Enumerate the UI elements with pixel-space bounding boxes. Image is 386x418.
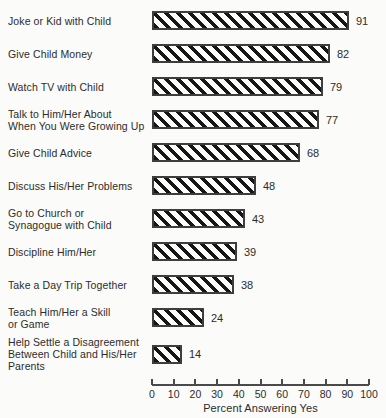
value-label: 14 [189,348,201,360]
value-label: 24 [211,312,223,324]
category-label-line: Help Settle a Disagreement [8,336,152,348]
category-label-line: Between Child and His/Her [8,348,152,360]
axis-tick [194,379,196,385]
bar-rows: Joke or Kid with Child91Give Child Money… [0,4,386,374]
bar-track: 77 [152,110,386,129]
category-label: Talk to Him/Her AboutWhen You Were Growi… [0,108,152,132]
category-label: Go to Church orSynagogue with Child [0,207,152,231]
value-label: 43 [252,213,264,225]
tick-label: 20 [190,388,202,400]
category-label: Joke or Kid with Child [0,15,152,27]
bar-row: Discuss His/Her Problems48 [0,169,386,202]
value-label: 38 [241,279,253,291]
bar-track: 39 [152,242,386,261]
category-label: Help Settle a DisagreementBetween Child … [0,336,152,372]
axis-tick [368,379,370,385]
bar-track: 68 [152,143,386,162]
axis-tick [151,379,153,385]
value-label: 77 [326,114,338,126]
hatched-bar [152,308,204,327]
bar-row: Give Child Advice68 [0,136,386,169]
bar-track: 82 [152,44,386,63]
bar-row: Teach Him/Her a Skillor Game24 [0,301,386,334]
bar-track: 91 [152,11,386,30]
bar-row: Take a Day Trip Together38 [0,268,386,301]
tick-label: 80 [320,388,332,400]
category-label-line: Watch TV with Child [8,81,152,93]
category-label-line: Give Child Advice [8,147,152,159]
bar-row: Watch TV with Child79 [0,70,386,103]
tick-label: 100 [360,388,378,400]
category-label-line: Synagogue with Child [8,219,152,231]
category-label: Give Child Advice [0,147,152,159]
hatched-bar [152,275,234,294]
hatched-bar [152,209,245,228]
bar-chart: Joke or Kid with Child91Give Child Money… [0,0,386,418]
hatched-bar [152,110,319,129]
value-label: 68 [307,147,319,159]
x-axis-line: 0102030405060708090100 [152,384,369,386]
tick-label: 50 [255,388,267,400]
bar-row: Go to Church orSynagogue with Child43 [0,202,386,235]
tick-label: 0 [149,388,155,400]
category-label-line: Give Child Money [8,48,152,60]
category-label-line: Discuss His/Her Problems [8,180,152,192]
axis-tick [303,379,305,385]
axis-tick [216,379,218,385]
axis-tick [325,379,327,385]
bar-row: Joke or Kid with Child91 [0,4,386,37]
x-axis: 0102030405060708090100 Percent Answering… [0,376,386,418]
bar-track: 24 [152,308,386,327]
value-label: 79 [330,81,342,93]
hatched-bar [152,242,237,261]
value-label: 91 [356,15,368,27]
category-label-line: Parents [8,360,152,372]
bar-row: Help Settle a DisagreementBetween Child … [0,334,386,374]
category-label: Teach Him/Her a Skillor Game [0,306,152,330]
bar-track: 38 [152,275,386,294]
category-label-line: When You Were Growing Up [8,120,152,132]
hatched-bar [152,77,323,96]
value-label: 82 [337,48,349,60]
category-label-line: Take a Day Trip Together [8,279,152,291]
axis-tick [281,379,283,385]
tick-label: 70 [298,388,310,400]
hatched-bar [152,11,349,30]
bar-track: 79 [152,77,386,96]
hatched-bar [152,176,256,195]
value-label: 39 [244,246,256,258]
axis-tick [260,379,262,385]
category-label: Watch TV with Child [0,81,152,93]
category-label: Discuss His/Her Problems [0,180,152,192]
tick-label: 90 [341,388,353,400]
bar-row: Discipline Him/Her39 [0,235,386,268]
axis-tick [173,379,175,385]
hatched-bar [152,143,300,162]
tick-label: 40 [233,388,245,400]
tick-label: 30 [211,388,223,400]
hatched-bar [152,345,182,364]
category-label-line: Joke or Kid with Child [8,15,152,27]
axis-tick [238,379,240,385]
bar-track: 43 [152,209,386,228]
category-label-line: or Game [8,318,152,330]
x-axis-title: Percent Answering Yes [152,402,369,414]
tick-label: 10 [168,388,180,400]
category-label-line: Teach Him/Her a Skill [8,306,152,318]
category-label: Take a Day Trip Together [0,279,152,291]
category-label-line: Talk to Him/Her About [8,108,152,120]
category-label: Discipline Him/Her [0,246,152,258]
bar-row: Give Child Money82 [0,37,386,70]
tick-label: 60 [276,388,288,400]
hatched-bar [152,44,330,63]
category-label-line: Go to Church or [8,207,152,219]
category-label-line: Discipline Him/Her [8,246,152,258]
bar-track: 14 [152,345,386,364]
value-label: 48 [263,180,275,192]
bar-track: 48 [152,176,386,195]
category-label: Give Child Money [0,48,152,60]
bar-row: Talk to Him/Her AboutWhen You Were Growi… [0,103,386,136]
axis-tick [346,379,348,385]
